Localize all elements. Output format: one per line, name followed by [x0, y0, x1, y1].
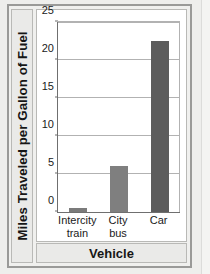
y-tick-mark	[55, 21, 58, 22]
x-category-label: Intercitytrain	[57, 214, 98, 239]
plot-inner: 0510152025	[58, 22, 180, 212]
y-tick-mark	[55, 173, 58, 174]
bar	[151, 41, 169, 212]
x-category-label-line: Intercity	[57, 214, 98, 227]
plot-area: 0510152025	[57, 22, 180, 213]
page-edge-strip	[201, 0, 210, 274]
x-category-label: Citybus	[98, 214, 139, 239]
x-axis-category-labels: IntercitytrainCitybusCar	[57, 214, 179, 239]
y-tick-label: 25	[42, 4, 54, 16]
x-category-label: Car	[138, 214, 179, 239]
plot-right-edge	[179, 22, 180, 212]
gridline	[58, 21, 180, 22]
x-category-label-line: train	[57, 227, 98, 240]
y-axis-title: Miles Traveled per Gallon of Fuel	[15, 31, 30, 240]
figure-page: Miles Traveled per Gallon of Fuel 051015…	[0, 0, 210, 274]
x-axis-title-box: Vehicle	[36, 243, 187, 263]
plot-top-edge	[58, 22, 180, 23]
x-category-label-line: bus	[98, 227, 139, 240]
x-axis-title: Vehicle	[89, 246, 134, 261]
y-tick-mark	[55, 97, 58, 98]
y-axis-title-box: Miles Traveled per Gallon of Fuel	[11, 9, 33, 263]
y-tick-mark	[55, 135, 58, 136]
y-tick-label: 20	[42, 42, 54, 54]
y-tick-mark	[55, 59, 58, 60]
y-tick-mark	[55, 211, 58, 212]
chart-card: 0510152025 IntercitytrainCitybusCar	[36, 9, 187, 242]
y-tick-label: 0	[48, 194, 54, 206]
y-tick-label: 10	[42, 118, 54, 130]
x-category-label-line: Car	[138, 214, 179, 227]
bar	[69, 208, 87, 212]
bar	[110, 166, 128, 212]
x-category-label-line: City	[98, 214, 139, 227]
y-tick-label: 5	[48, 156, 54, 168]
y-tick-label: 15	[42, 80, 54, 92]
